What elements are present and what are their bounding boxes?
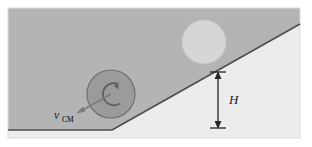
ghost-disk: [182, 20, 226, 64]
velocity-label-subscript: CM: [62, 115, 74, 124]
height-label: H: [228, 92, 239, 107]
velocity-label: v: [54, 109, 60, 121]
figure-panel: v CM H: [0, 0, 312, 147]
inclined-plane-diagram: v CM H: [0, 0, 312, 147]
